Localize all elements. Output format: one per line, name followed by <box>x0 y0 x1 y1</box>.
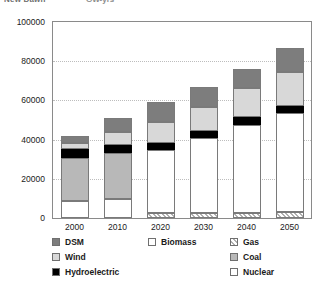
bar-segment-gas-2040[interactable] <box>233 213 261 218</box>
cropped-caption-strip: New Dawn GW-yrs <box>0 0 322 9</box>
y-tick-label: 80000 <box>21 56 45 66</box>
bar-segment-coal-2000[interactable] <box>61 158 89 201</box>
bar-segment-wind-2050[interactable] <box>276 72 304 106</box>
legend-label: Gas <box>243 237 259 247</box>
bar-segment-hydroelectric-2030[interactable] <box>190 131 218 138</box>
y-tick-label: 60000 <box>21 95 45 105</box>
legend-column-1: DSMWindHydroelectric <box>52 236 148 284</box>
legend-item-gas[interactable]: Gas <box>230 236 310 248</box>
hydroelectric-swatch <box>52 268 60 276</box>
bar-segment-nuclear-2020[interactable] <box>147 150 175 213</box>
bar-segment-gas-2030[interactable] <box>190 213 218 218</box>
caption-left-fragment: New Dawn <box>4 0 46 4</box>
bar-segment-dsm-2030[interactable] <box>190 87 218 107</box>
y-axis-tick-labels: 020000400006000080000100000 <box>0 21 50 219</box>
bar-segment-hydroelectric-2040[interactable] <box>233 117 261 125</box>
y-tick-label: 40000 <box>21 135 45 145</box>
bar-segment-nuclear-2040[interactable] <box>233 125 261 213</box>
bar-segment-wind-2040[interactable] <box>233 88 261 117</box>
bar-segment-dsm-2000[interactable] <box>61 136 89 143</box>
legend-item-dsm[interactable]: DSM <box>52 236 148 248</box>
x-axis-tick-labels: 200020102020203020402050 <box>52 222 312 236</box>
x-tick-label: 2020 <box>151 222 170 232</box>
bar-2030[interactable] <box>190 22 218 218</box>
plot-area <box>52 21 312 219</box>
bar-segment-coal-2010[interactable] <box>104 153 132 199</box>
y-tick-label: 100000 <box>17 17 45 27</box>
bar-segment-nuclear-2030[interactable] <box>190 138 218 212</box>
coal-swatch <box>230 253 238 261</box>
wind-swatch <box>52 253 60 261</box>
legend-item-coal[interactable]: Coal <box>230 251 310 263</box>
legend-label: DSM <box>65 237 84 247</box>
legend-column-2: Biomass <box>148 236 230 284</box>
bar-segment-hydroelectric-2000[interactable] <box>61 149 89 158</box>
legend-item-wind[interactable]: Wind <box>52 251 148 263</box>
legend-item-biomass[interactable]: Biomass <box>148 236 230 248</box>
bar-segment-wind-2000[interactable] <box>61 143 89 150</box>
nuclear-swatch <box>230 268 238 276</box>
legend-column-3: GasCoalNuclear <box>230 236 310 284</box>
y-tick-label: 20000 <box>21 174 45 184</box>
chart-legend: DSMWindHydroelectricBiomassGasCoalNuclea… <box>52 236 316 284</box>
bar-segment-dsm-2040[interactable] <box>233 69 261 88</box>
x-tick-label: 2010 <box>108 222 127 232</box>
bar-segment-wind-2020[interactable] <box>147 122 175 144</box>
bar-segment-dsm-2010[interactable] <box>104 118 132 132</box>
legend-label: Nuclear <box>243 267 274 277</box>
gas-swatch <box>230 238 238 246</box>
legend-item-hydroelectric[interactable]: Hydroelectric <box>52 266 148 278</box>
bar-2040[interactable] <box>233 22 261 218</box>
bar-segment-gas-2020[interactable] <box>147 213 175 218</box>
bar-segment-dsm-2050[interactable] <box>276 48 304 72</box>
stacked-bar-chart-figure: 020000400006000080000100000 200020102020… <box>0 9 322 284</box>
legend-label: Coal <box>243 252 261 262</box>
y-tick-label: 0 <box>40 213 45 223</box>
bar-segment-hydroelectric-2010[interactable] <box>104 145 132 153</box>
bar-segment-dsm-2020[interactable] <box>147 102 175 121</box>
legend-item-nuclear[interactable]: Nuclear <box>230 266 310 278</box>
bar-segment-wind-2010[interactable] <box>104 132 132 145</box>
bar-segment-wind-2030[interactable] <box>190 107 218 132</box>
bar-2020[interactable] <box>147 22 175 218</box>
bar-segment-gas-2050[interactable] <box>276 212 304 218</box>
bar-group <box>53 22 311 218</box>
caption-right-fragment: GW-yrs <box>86 0 114 4</box>
biomass-swatch <box>148 238 156 246</box>
x-tick-label: 2030 <box>194 222 213 232</box>
legend-label: Biomass <box>161 237 196 247</box>
x-tick-label: 2000 <box>65 222 84 232</box>
dsm-swatch <box>52 238 60 246</box>
bar-segment-nuclear-2050[interactable] <box>276 113 304 212</box>
bar-2000[interactable] <box>61 22 89 218</box>
bar-2010[interactable] <box>104 22 132 218</box>
x-tick-label: 2040 <box>237 222 256 232</box>
bar-2050[interactable] <box>276 22 304 218</box>
bar-segment-hydroelectric-2050[interactable] <box>276 106 304 113</box>
x-tick-label: 2050 <box>280 222 299 232</box>
bar-segment-nuclear-2010[interactable] <box>104 199 132 218</box>
legend-label: Hydroelectric <box>65 267 119 277</box>
bar-segment-nuclear-2000[interactable] <box>61 201 89 218</box>
bar-segment-hydroelectric-2020[interactable] <box>147 143 175 150</box>
legend-label: Wind <box>65 252 86 262</box>
